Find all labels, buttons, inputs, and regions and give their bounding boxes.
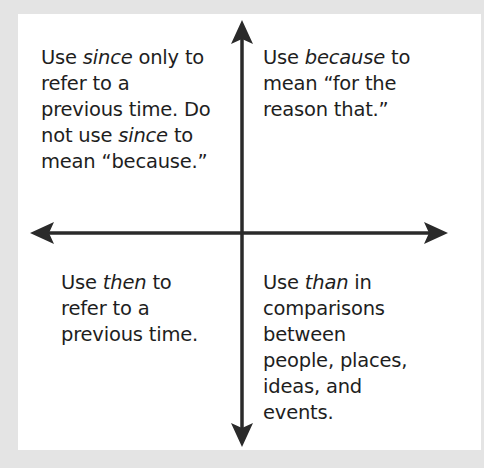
text-line: Use since only to — [41, 45, 237, 71]
emphasized-word: since — [83, 46, 133, 69]
text: only to — [132, 46, 204, 69]
text-line: not use since to — [41, 123, 237, 149]
quadrant-bottom-right-than: Use than in comparisons between people, … — [263, 270, 463, 426]
text-line: Use because to — [263, 45, 463, 71]
text-line: refer to a — [41, 71, 237, 97]
text: Use — [263, 46, 305, 69]
text: Use — [263, 271, 305, 294]
text: not use — [41, 124, 118, 147]
text: to — [168, 124, 193, 147]
text-line: reason that.” — [263, 97, 463, 123]
text-line: refer to a — [61, 296, 241, 322]
text: Use — [61, 271, 103, 294]
text-line: people, places, — [263, 348, 463, 374]
emphasized-word: because — [305, 46, 385, 69]
text: Use — [41, 46, 83, 69]
quadrant-bottom-left-then: Use then to refer to a previous time. — [61, 270, 241, 348]
quadrant-top-left-since: Use since only to refer to a previous ti… — [41, 45, 237, 175]
text-line: comparisons — [263, 296, 463, 322]
emphasized-word: than — [305, 271, 349, 294]
text-line: mean “for the — [263, 71, 463, 97]
text-line: mean “because.” — [41, 149, 237, 175]
text: to — [385, 46, 410, 69]
emphasized-word: since — [118, 124, 168, 147]
text-line: events. — [263, 400, 463, 426]
text-line: between — [263, 322, 463, 348]
quadrant-top-right-because: Use because to mean “for the reason that… — [263, 45, 463, 123]
text-line: previous time. — [61, 322, 241, 348]
text-line: previous time. Do — [41, 97, 237, 123]
text-line: Use then to — [61, 270, 241, 296]
text: to — [146, 271, 171, 294]
text: in — [348, 271, 371, 294]
text-line: Use than in — [263, 270, 463, 296]
text-line: ideas, and — [263, 374, 463, 400]
emphasized-word: then — [103, 271, 147, 294]
